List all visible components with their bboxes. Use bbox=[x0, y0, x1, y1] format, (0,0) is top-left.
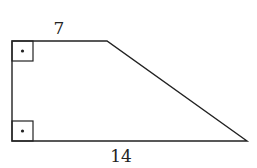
top-base-label: 7 bbox=[54, 18, 65, 38]
right-angle-marker-bottom bbox=[12, 121, 33, 141]
bottom-base-label: 14 bbox=[110, 146, 132, 166]
right-angle-marker-top bbox=[12, 41, 33, 61]
trapezoid-diagram: 7 14 bbox=[0, 0, 257, 168]
trapezoid-outline bbox=[12, 41, 247, 141]
